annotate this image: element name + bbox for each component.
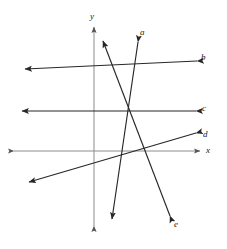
figure-canvas xyxy=(0,0,227,249)
line-c-label: c xyxy=(202,104,206,113)
line-b-label: b xyxy=(201,53,206,62)
axis-group xyxy=(14,27,200,226)
y-axis-label: y xyxy=(90,12,94,21)
line-e-segment xyxy=(103,41,170,216)
line-e-label: e xyxy=(174,220,178,229)
line-d-label: d xyxy=(203,130,208,139)
line-diagram-figure: x y a b c d e xyxy=(0,0,227,249)
line-a-segment xyxy=(112,42,138,219)
line-d-segment xyxy=(29,133,196,182)
x-axis-label: x xyxy=(206,146,210,155)
line-a-label: a xyxy=(140,28,145,37)
ray-group xyxy=(22,41,197,219)
